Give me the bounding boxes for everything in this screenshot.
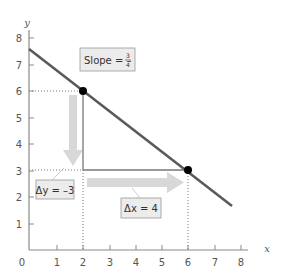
y-tick-label: 7 xyxy=(16,60,22,71)
y-tick-label: 1 xyxy=(16,219,22,230)
x-tick-label: 2 xyxy=(80,257,86,268)
y-axis-title: y xyxy=(23,17,30,28)
point-6-3 xyxy=(184,166,192,174)
point-2-6 xyxy=(79,87,87,95)
delta-y-label-box: Δy = –3 xyxy=(36,180,75,199)
x-ticks xyxy=(57,245,241,250)
delta-y-arrow-head xyxy=(63,150,83,166)
delta-x-arrow-shaft xyxy=(87,178,167,187)
x-tick-label: 4 xyxy=(133,257,139,268)
slope-chart: 1 2 3 4 5 6 7 8 0 1 2 3 4 5 6 7 8 y x Sl… xyxy=(0,0,283,272)
y-tick-label: 4 xyxy=(16,139,22,150)
x-tick-label: 5 xyxy=(159,257,165,268)
x-tick-label: 3 xyxy=(107,257,113,268)
x-tick-label: 6 xyxy=(185,257,191,268)
svg-text:Δy = –3: Δy = –3 xyxy=(36,185,75,196)
y-tick-label: 5 xyxy=(16,113,22,124)
y-tick-label: 2 xyxy=(16,192,22,203)
y-ticks xyxy=(29,38,34,224)
x-axis-title: x xyxy=(264,243,270,254)
x-tick-label: 7 xyxy=(212,257,218,268)
delta-x-arrow-head xyxy=(167,172,184,193)
x-tick-label: 0 xyxy=(19,257,25,268)
y-tick-label: 8 xyxy=(16,33,22,44)
svg-text:3: 3 xyxy=(126,52,130,59)
y-tick-label: 3 xyxy=(16,166,22,177)
slope-label-box: Slope = – 3 4 xyxy=(80,48,135,71)
y-tick-label: 6 xyxy=(16,86,22,97)
delta-x-leader xyxy=(132,188,140,198)
x-tick-label: 8 xyxy=(238,257,244,268)
delta-x-label-box: Δx = 4 xyxy=(121,198,161,218)
delta-y-arrow-shaft xyxy=(69,95,77,150)
x-tick-label: 1 xyxy=(54,257,60,268)
svg-text:4: 4 xyxy=(126,61,130,68)
svg-text:Δx = 4: Δx = 4 xyxy=(124,203,158,214)
svg-text:Slope = –: Slope = – xyxy=(84,55,131,66)
